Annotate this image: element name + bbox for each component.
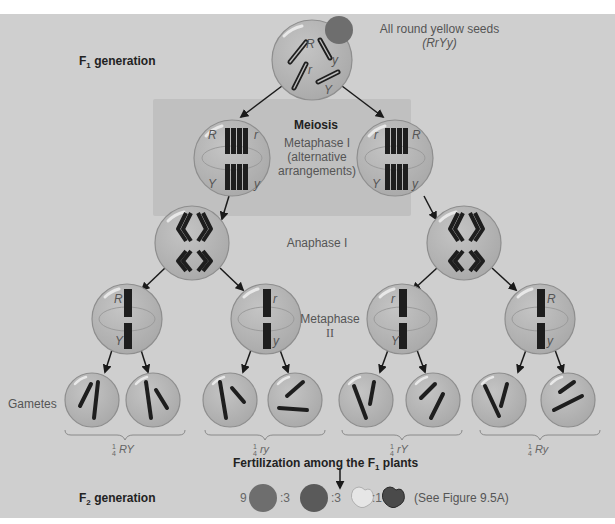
allele-label: y xyxy=(273,334,279,348)
allele-label: y xyxy=(547,334,553,348)
allele-label: R xyxy=(547,292,556,306)
metaphase2-label: Metaphase II xyxy=(295,312,365,340)
metaphase1-cell-right xyxy=(357,120,433,196)
metaphase2-cell-2 xyxy=(231,284,301,354)
ratio-count-1: 9 xyxy=(240,491,247,505)
allele-label: y xyxy=(332,53,338,67)
round-yellow-seed-icon xyxy=(325,16,353,44)
allele-label: r xyxy=(273,292,277,306)
anaphase1-label: Anaphase I xyxy=(282,236,352,250)
ratio-count-4: :1 xyxy=(372,491,382,505)
allele-label: r xyxy=(308,63,312,77)
meiosis-label: Meiosis xyxy=(286,118,346,132)
metaphase1-label: Metaphase I (alternative arrangements) xyxy=(272,136,362,178)
f2-generation-label: F2 generation xyxy=(79,491,155,510)
allele-label: y xyxy=(412,177,418,191)
metaphase2-cell-1 xyxy=(92,284,162,354)
see-figure-reference: (See Figure 9.5A) xyxy=(414,491,509,505)
ratio-count-3: :3 xyxy=(331,491,341,505)
allele-label: r xyxy=(254,128,258,142)
gamete-braces xyxy=(65,430,600,440)
gamete-fraction-ry-mixed1: 14rY xyxy=(390,443,408,457)
gametes-label: Gametes xyxy=(8,397,57,411)
diagram-stage: F1 generation All round yellow seeds (Rr… xyxy=(0,0,615,524)
allele-label: R xyxy=(306,37,315,51)
gamete-fraction-ry-upper: 14RY xyxy=(112,443,134,457)
allele-label: Y xyxy=(391,334,399,348)
wrinkled-green-seed-icon xyxy=(382,487,404,508)
round-yellow-seed-icon xyxy=(249,484,277,512)
parent-cell xyxy=(272,16,353,100)
allele-label: r xyxy=(374,128,378,142)
round-green-seed-icon xyxy=(300,484,328,512)
allele-label: R xyxy=(412,128,421,142)
allele-label: Y xyxy=(208,177,216,191)
allele-label: Y xyxy=(115,334,123,348)
allele-label: R xyxy=(208,128,217,142)
f1-generation-label: F1 generation xyxy=(79,54,155,73)
allele-label: y xyxy=(254,177,260,191)
metaphase2-cell-3 xyxy=(367,284,437,354)
gamete-fraction-ry-lower: 14ry xyxy=(253,443,269,457)
anaphase1-cell-left xyxy=(155,206,229,280)
parent-description: All round yellow seeds (RrYy) xyxy=(372,22,507,50)
meiosis-diagram xyxy=(0,0,615,524)
allele-label: Y xyxy=(372,177,380,191)
allele-label: Y xyxy=(324,83,332,97)
allele-label: r xyxy=(391,292,395,306)
fertilization-label: Fertilization among the F1 plants xyxy=(233,456,418,475)
anaphase1-cell-right xyxy=(427,206,501,280)
gamete-cells xyxy=(65,373,595,427)
allele-label: R xyxy=(114,292,123,306)
wrinkled-yellow-seed-icon xyxy=(351,487,373,508)
metaphase2-cell-4 xyxy=(505,284,575,354)
ratio-count-2: :3 xyxy=(280,491,290,505)
gamete-fraction-ry-mixed2: 14Ry xyxy=(528,443,548,457)
